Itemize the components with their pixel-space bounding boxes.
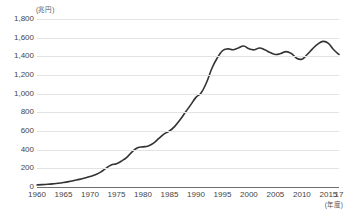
x-axis-tick-label: 1975: [108, 190, 126, 199]
x-axis-tick-label: 2000: [240, 190, 258, 199]
x-axis-tick-label: 1990: [187, 190, 205, 199]
x-axis-line: [37, 187, 339, 188]
y-axis-tick-label: 1,800: [0, 15, 34, 23]
y-axis-tick-label: 1,000: [0, 90, 34, 98]
y-axis-tick-label: 1,600: [0, 34, 34, 42]
x-axis-tick-label: 1995: [214, 190, 232, 199]
y-axis: 1,8001,6001,4001,2001,0008006004002000: [0, 0, 34, 214]
x-axis-tick-label: 2010: [293, 190, 311, 199]
x-axis: 1960196519701975198019851990199520002005…: [0, 190, 349, 204]
x-axis-tick-label: 17: [335, 190, 344, 199]
x-axis-tick-label: 1965: [55, 190, 73, 199]
x-axis-tick-label: 1980: [134, 190, 152, 199]
gridline: [37, 19, 339, 20]
x-axis-tick-label: 2005: [267, 190, 285, 199]
y-axis-tick-label: 800: [0, 108, 34, 116]
gridline: [37, 168, 339, 169]
gridline: [37, 75, 339, 76]
y-axis-unit-label: (兆円): [36, 6, 54, 13]
gridline: [37, 56, 339, 57]
gridline: [37, 94, 339, 95]
gridline: [37, 131, 339, 132]
y-axis-tick-label: 1,400: [0, 52, 34, 60]
line-chart: (兆円) 1,8001,6001,4001,2001,0008006004002…: [0, 0, 349, 214]
x-axis-tick-label: 1970: [81, 190, 99, 199]
data-series-line: [37, 19, 339, 187]
gridline: [37, 38, 339, 39]
x-axis-tick-label: 1985: [161, 190, 179, 199]
y-axis-tick-label: 400: [0, 146, 34, 154]
y-axis-tick-label: 600: [0, 127, 34, 135]
plot-area: [37, 19, 339, 187]
y-axis-tick-label: 200: [0, 164, 34, 172]
gridline: [37, 150, 339, 151]
y-axis-tick-label: 1,200: [0, 71, 34, 79]
x-axis-unit-label: (年度): [325, 201, 343, 208]
x-axis-tick-label: 1960: [28, 190, 46, 199]
gridline: [37, 112, 339, 113]
